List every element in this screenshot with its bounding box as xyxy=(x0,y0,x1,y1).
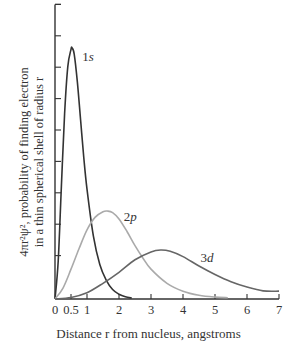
curve-3d xyxy=(55,250,279,299)
label-1s: 1s xyxy=(82,49,94,64)
curve-1s xyxy=(55,47,132,299)
x-tick-label: 7 xyxy=(276,303,282,317)
x-tick-label: 6 xyxy=(244,303,250,317)
y-axis-label: 4πr²ψ², probability of finding electron … xyxy=(17,17,57,307)
label-2p: 2p xyxy=(124,209,138,224)
x-tick-label: 3 xyxy=(148,303,154,317)
y-axis-label-line2: in a thin spherical shell of radius r xyxy=(32,17,47,307)
x-tick-label: 1 xyxy=(84,303,90,317)
x-tick-label: 4 xyxy=(180,303,187,317)
label-3d: 3d xyxy=(201,250,215,265)
x-tick-label: 2 xyxy=(116,303,122,317)
curves xyxy=(55,47,279,299)
x-tick-label: 0.5 xyxy=(63,303,79,317)
x-tick-label: 5 xyxy=(212,303,218,317)
x-axis-label: Distance r from nucleus, angstroms xyxy=(0,326,297,342)
curve-labels: 1s2p3d xyxy=(82,49,214,265)
y-axis-label-line1: 4πr²ψ², probability of finding electron xyxy=(17,17,32,307)
